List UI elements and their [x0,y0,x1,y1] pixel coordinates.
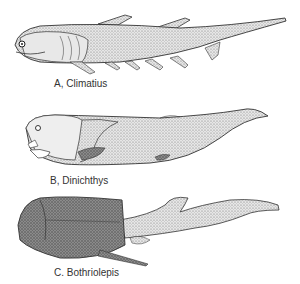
caption-climatius: A, Climatius [54,78,107,89]
bothriolepis-drawing [18,197,279,266]
caption-bothriolepis: C. Bothriolepis [54,267,119,278]
fossil-fish-illustration: A, Climatius B, Dinichthys C. Bothriolep… [0,0,300,284]
climatius-drawing [15,15,286,74]
caption-dinichthys: B, Dinichthys [50,175,108,186]
dinichthys-drawing [26,109,268,165]
